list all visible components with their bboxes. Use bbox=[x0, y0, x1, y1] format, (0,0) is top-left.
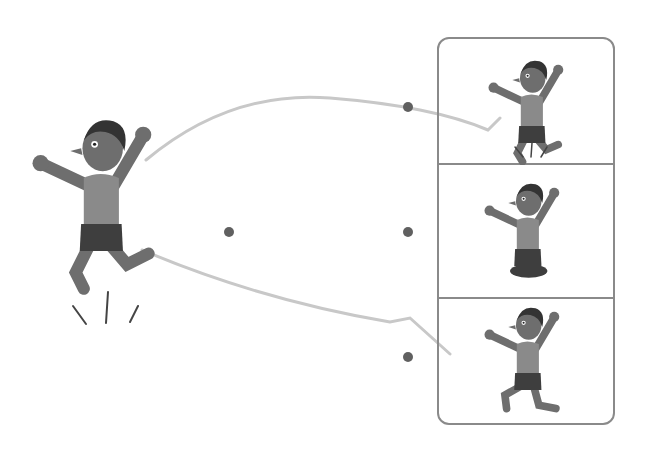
option-2-figure bbox=[439, 165, 617, 299]
option-panel-3[interactable] bbox=[439, 299, 613, 423]
main-jumping-boy bbox=[33, 120, 152, 288]
option-3-figure bbox=[439, 299, 617, 423]
options-frame bbox=[437, 37, 615, 425]
motion-lines-icon bbox=[73, 292, 138, 324]
option-dot-3[interactable] bbox=[403, 352, 413, 362]
option-panel-2[interactable] bbox=[439, 165, 613, 299]
option-dot-2[interactable] bbox=[403, 227, 413, 237]
option-dot-1[interactable] bbox=[403, 102, 413, 112]
bubble-outline-bottom bbox=[142, 250, 450, 354]
option-dot-center[interactable] bbox=[224, 227, 234, 237]
option-1-figure bbox=[439, 39, 617, 165]
option-panel-1[interactable] bbox=[439, 39, 613, 165]
